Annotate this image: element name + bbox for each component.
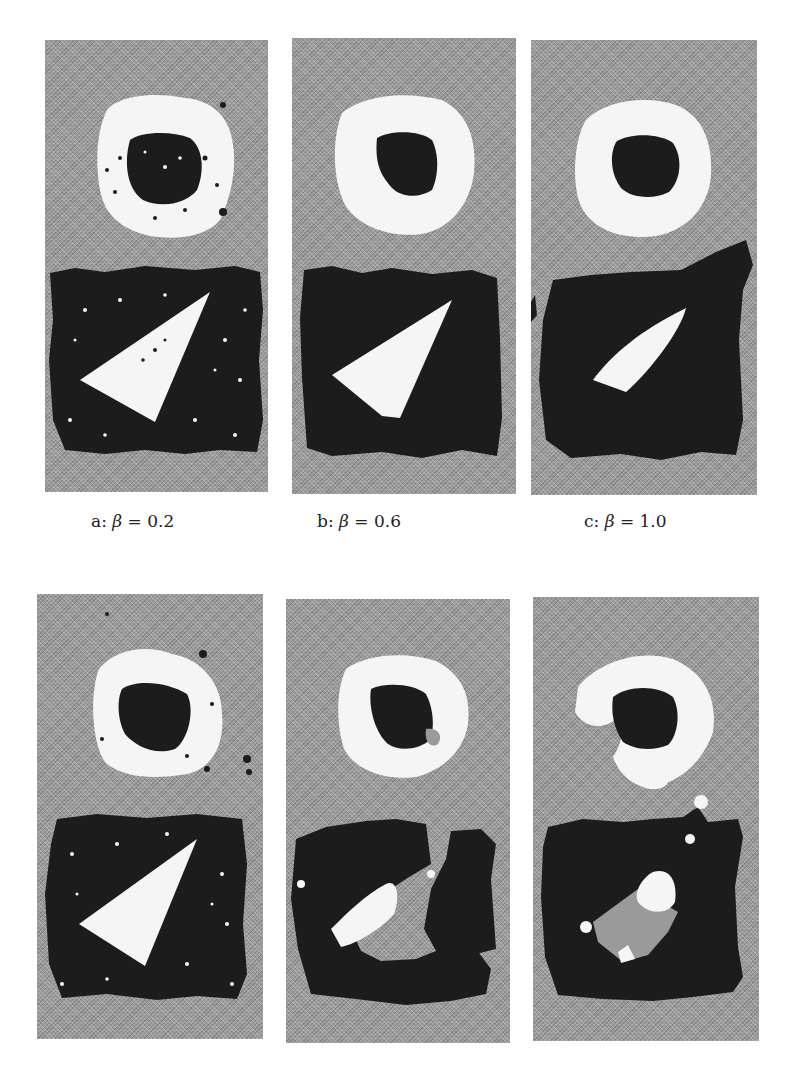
caption-a-equals: = — [128, 511, 142, 531]
caption-b-beta-symbol: β — [339, 511, 349, 531]
segmentation-panel-a — [45, 40, 268, 492]
caption-c-value: 1.0 — [640, 511, 667, 531]
panel-f-shapes — [533, 597, 759, 1041]
caption-a-prefix: a: — [91, 511, 107, 531]
panel-d-shapes — [37, 594, 263, 1039]
panel-e-shapes — [286, 599, 510, 1043]
caption-b-value: 0.6 — [374, 511, 401, 531]
caption-a: a: β = 0.2 — [91, 511, 174, 531]
segmentation-panel-b — [292, 38, 516, 494]
caption-a-beta-symbol: β — [112, 511, 122, 531]
caption-b-equals: = — [354, 511, 368, 531]
segmentation-panel-e — [286, 599, 510, 1043]
caption-c-beta-symbol: β — [605, 511, 615, 531]
segmentation-panel-c — [531, 40, 757, 495]
panel-b-shapes — [292, 38, 516, 494]
caption-a-value: 0.2 — [147, 511, 174, 531]
caption-b: b: β = 0.6 — [317, 511, 401, 531]
panel-a-shapes — [45, 40, 268, 492]
caption-b-prefix: b: — [317, 511, 334, 531]
segmentation-panel-f — [533, 597, 759, 1041]
caption-c-prefix: c: — [584, 511, 599, 531]
caption-c-equals: = — [620, 511, 634, 531]
segmentation-panel-d — [37, 594, 263, 1039]
panel-c-shapes — [531, 40, 757, 495]
caption-c: c: β = 1.0 — [584, 511, 667, 531]
